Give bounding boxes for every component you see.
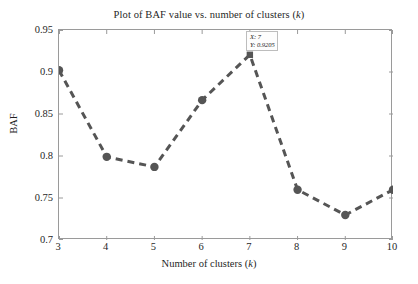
data-point [198,96,206,104]
data-tip-x-value: X: 7 [250,33,275,41]
x-axis-tick-label: 8 [277,241,317,253]
data-tip-y-value: Y: 0.9205 [250,41,275,49]
x-axis-tick-label: 6 [181,241,221,253]
y-axis-label: BAF [8,94,19,154]
x-axis-tick-label: 7 [229,241,269,253]
data-series-plot [59,30,393,240]
x-axis-label: Number of clusters (k) [0,258,418,269]
data-point [293,186,301,194]
data-point-highlighted [247,52,253,58]
x-axis-tick-labels: 345678910 [58,241,392,257]
x-axis-tick-label: 9 [324,241,364,253]
data-point [59,66,63,74]
chart-title: Plot of BAF value vs. number of clusters… [0,9,418,20]
chart-title-suffix: ) [301,9,305,20]
y-axis-tick-label: 0.95 [5,24,53,35]
x-axis-tick-label: 5 [133,241,173,253]
data-tip-annotation: X: 7 Y: 0.9205 [246,31,278,51]
x-axis-tick-label: 4 [86,241,126,253]
series-markers [59,52,393,220]
y-axis-tick-label: 0.75 [5,192,53,203]
data-point [150,163,158,171]
series-line [59,55,393,215]
data-point [341,211,349,219]
x-axis-label-prefix: Number of clusters ( [162,258,249,269]
plot-area [58,29,392,239]
chart-figure: Plot of BAF value vs. number of clusters… [0,0,418,284]
y-axis-tick-label: 0.9 [5,66,53,77]
x-axis-tick-label: 10 [372,241,412,253]
x-axis-label-suffix: ) [253,258,257,269]
x-axis-tick-label: 3 [38,241,78,253]
tick-marks [59,30,393,240]
chart-title-prefix: Plot of BAF value vs. number of clusters… [114,9,296,20]
data-point [103,153,111,161]
